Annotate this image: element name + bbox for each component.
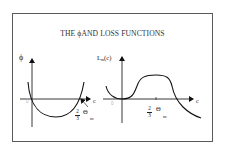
loss-marker-subscript: m (163, 115, 167, 120)
loss-marker-theta: Θ (156, 106, 161, 113)
loss-y-label-arg: (c) (104, 54, 111, 61)
loss-y-label: Lm(c) (97, 55, 111, 62)
fraction-denominator: 3 (147, 113, 152, 118)
phi-x-label: c (93, 98, 96, 104)
phi-marker-subscript: m (90, 117, 94, 122)
plots-canvas (0, 0, 225, 151)
fraction-numerator: 2 (147, 106, 152, 111)
phi-y-label: ϕ (19, 54, 23, 62)
fraction-denominator: 3 (75, 116, 80, 121)
loss-marker-fraction: 2 3 (147, 106, 152, 118)
phi-marker-theta: Θ (83, 109, 88, 116)
phi-marker-fraction: 2 3 (75, 109, 80, 121)
loss-plot (103, 57, 201, 123)
loss-x-label: c (196, 98, 199, 104)
fraction-numerator: 2 (75, 109, 80, 114)
phi-marker-pointer (81, 99, 88, 107)
loss-curve (106, 75, 201, 118)
phi-origin-label: 0 (26, 100, 29, 105)
loss-origin-label: 0 (111, 102, 114, 107)
